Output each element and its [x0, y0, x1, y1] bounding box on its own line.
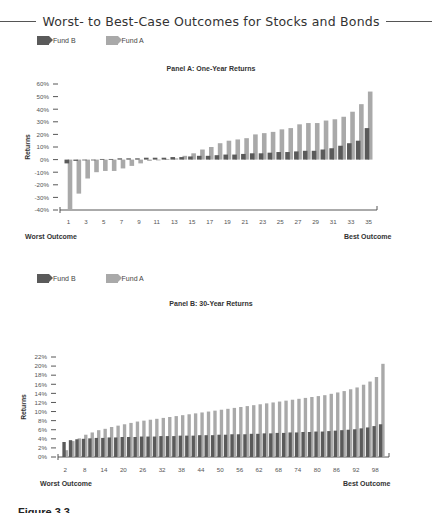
bar-fund-b: [109, 159, 114, 160]
x-tick-label: 74: [294, 466, 301, 473]
bar-fund-b: [312, 151, 317, 160]
bar-fund-b: [241, 154, 246, 160]
bar-fund-b: [263, 433, 266, 457]
panel-b-worst-outcome-label: Worst Outcome: [40, 480, 92, 487]
y-tick-label: 0%: [40, 156, 49, 163]
bar-fund-b: [114, 437, 117, 457]
bar-fund-b: [75, 439, 78, 457]
bar-fund-b: [295, 432, 298, 457]
bar-fund-b: [127, 437, 130, 457]
bar-fund-b: [121, 437, 124, 457]
x-tick-label: 31: [330, 218, 337, 225]
bar-fund-b: [232, 155, 237, 160]
y-tick-label: 30%: [37, 118, 50, 125]
panel-a-worst-outcome-label: Worst Outcome: [25, 233, 77, 240]
x-tick-label: 17: [206, 218, 213, 225]
bar-fund-b: [365, 128, 370, 160]
y-axis-label: Returns: [20, 394, 27, 420]
panel-b-best-outcome-label: Best Outcome: [343, 480, 390, 487]
bar-fund-a: [147, 160, 152, 161]
bar-fund-b: [372, 426, 375, 457]
bar-fund-b: [133, 437, 136, 457]
bar-fund-b: [192, 436, 195, 457]
panel-a-plot: 60%50%40%30%20%10%0%-10%-20%-30%-40%Retu…: [24, 80, 377, 225]
bar-fund-b: [338, 146, 343, 160]
bar-fund-b: [356, 141, 361, 160]
figure-caption-text: Figure 3.3: [18, 507, 422, 513]
bar-fund-b: [321, 150, 326, 160]
bar-fund-b: [62, 442, 65, 457]
bar-fund-a: [103, 160, 108, 171]
x-tick-label: 26: [139, 466, 146, 473]
bar-fund-b: [327, 431, 330, 457]
x-tick-label: 21: [242, 218, 249, 225]
bar-fund-b: [215, 155, 220, 159]
x-tick-label: 35: [365, 218, 372, 225]
x-tick-label: 7: [120, 218, 124, 225]
bar-fund-b: [153, 437, 156, 457]
bar-fund-b: [108, 437, 111, 457]
bar-fund-b: [347, 430, 350, 457]
bar-fund-a: [68, 160, 73, 210]
bar-fund-b: [250, 153, 255, 159]
x-tick-label: 92: [352, 466, 359, 473]
bar-fund-b: [301, 432, 304, 457]
bar-fund-b: [288, 432, 291, 457]
y-tick-label: 4%: [38, 435, 47, 442]
bar-fund-b: [73, 160, 78, 161]
bar-fund-b: [250, 434, 253, 457]
x-tick-label: 44: [197, 466, 204, 473]
y-tick-label: -10%: [35, 169, 50, 176]
bar-fund-b: [223, 155, 228, 160]
y-tick-label: 40%: [37, 106, 50, 113]
bar-fund-b: [282, 433, 285, 457]
bar-fund-b: [144, 158, 149, 160]
bar-fund-b: [256, 434, 259, 457]
bar-fund-b: [82, 439, 85, 457]
bar-fund-b: [135, 158, 140, 159]
bar-fund-b: [294, 151, 299, 159]
bar-fund-b: [198, 435, 201, 457]
y-tick-label: 20%: [37, 131, 50, 138]
bar-fund-a: [94, 160, 99, 173]
x-tick-label: 2: [64, 466, 68, 473]
x-tick-label: 33: [347, 218, 354, 225]
x-tick-label: 56: [236, 466, 243, 473]
bar-fund-b: [230, 434, 233, 457]
bar-fund-b: [82, 160, 87, 161]
y-tick-label: 10%: [37, 143, 50, 150]
bar-fund-b: [268, 153, 273, 160]
bar-fund-b: [159, 436, 162, 457]
bar-fund-b: [243, 434, 246, 457]
x-tick-label: 11: [153, 218, 160, 225]
x-tick-label: 3: [84, 218, 88, 225]
y-tick-label: -20%: [35, 181, 50, 188]
x-tick-label: 27: [295, 218, 302, 225]
bar-fund-b: [366, 427, 369, 457]
bar-fund-a: [112, 160, 117, 171]
figure-caption-cropped: Figure 3.3: [0, 507, 422, 513]
bar-fund-b: [308, 432, 311, 457]
x-tick-label: 23: [259, 218, 266, 225]
bar-fund-b: [166, 436, 169, 457]
bar-fund-b: [285, 152, 290, 160]
bar-fund-b: [69, 440, 72, 457]
y-tick-label: 20%: [35, 362, 48, 369]
bar-fund-b: [237, 434, 240, 457]
bar-fund-b: [91, 160, 96, 161]
bar-fund-b: [172, 436, 175, 457]
bar-fund-b: [334, 431, 337, 457]
y-tick-label: 14%: [35, 390, 48, 397]
x-tick-label: 1: [67, 218, 71, 225]
y-tick-label: 16%: [35, 381, 48, 388]
x-tick-label: 98: [372, 466, 379, 473]
bar-fund-a: [130, 160, 135, 166]
x-tick-label: 13: [171, 218, 178, 225]
y-tick-label: 2%: [38, 444, 47, 451]
x-tick-label: 9: [137, 218, 141, 225]
bar-fund-b: [101, 438, 104, 457]
bar-fund-b: [321, 432, 324, 457]
bar-fund-b: [197, 156, 202, 160]
bar-fund-b: [353, 429, 356, 457]
x-tick-label: 19: [224, 218, 231, 225]
